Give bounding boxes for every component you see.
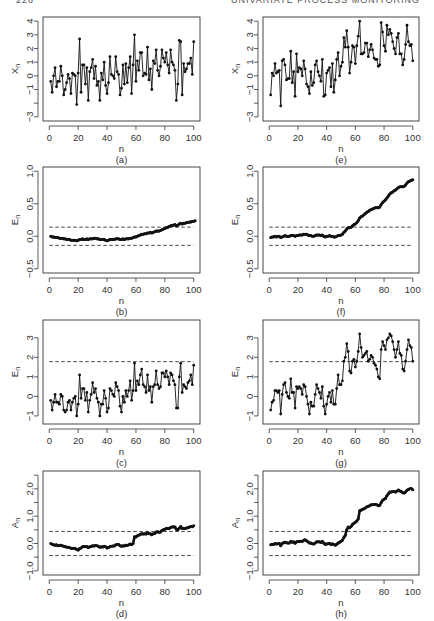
y-tick-label: 1.0 — [244, 165, 255, 178]
x-tick-label: 60 — [350, 132, 361, 143]
x-tick-label: 40 — [102, 132, 113, 143]
x-tick-label: 60 — [350, 284, 361, 295]
x-tick-label: 0 — [267, 284, 272, 295]
panel-caption: (b) — [116, 306, 128, 317]
plot-frame — [43, 167, 200, 273]
y-tick-label: 2 — [244, 355, 255, 360]
y-axis-label: En — [229, 367, 241, 377]
x-tick-label: 40 — [321, 435, 332, 446]
chart-panel-g: 020406080100n(g)−10123En — [229, 320, 420, 468]
y-tick-label: 1 — [24, 60, 35, 65]
x-tick-label: 0 — [47, 132, 52, 143]
x-tick-label: 20 — [293, 435, 304, 446]
x-tick-label: 20 — [293, 586, 304, 597]
y-axis: −0.50.00.51.0 — [24, 165, 38, 279]
x-axis: 020406080100 — [267, 429, 421, 446]
x-tick-label: 40 — [102, 284, 113, 295]
y-tick-label: −1 — [244, 84, 255, 95]
data-points — [49, 362, 195, 418]
plot-frame — [263, 167, 419, 273]
x-tick-label: 20 — [73, 284, 84, 295]
data-series-line — [271, 334, 413, 414]
y-tick-label: −1 — [24, 411, 35, 422]
y-tick-label: −3 — [24, 111, 35, 122]
y-tick-label: 1 — [244, 60, 255, 65]
y-axis: −10123 — [244, 335, 258, 421]
x-tick-label: 0 — [267, 586, 272, 597]
x-tick-label: 40 — [102, 586, 113, 597]
y-tick-label: 0 — [244, 394, 255, 399]
y-tick-label: 0 — [24, 73, 35, 78]
panel-caption: (c) — [116, 457, 127, 468]
y-tick-label: −0.5 — [24, 259, 35, 278]
y-tick-label: 3 — [24, 32, 35, 37]
x-tick-label: 60 — [131, 132, 142, 143]
panel-caption: (a) — [116, 154, 128, 165]
figure-grid: 020406080100n(a)−3−101234Xn020406080100n… — [0, 0, 434, 621]
y-axis: −1.00.01.02.0 — [24, 475, 38, 580]
y-tick-label: 2 — [24, 46, 35, 51]
chart-panel-f: 020406080100n(f)−0.50.00.51.0En — [229, 165, 420, 317]
y-tick-label: 2 — [244, 46, 255, 51]
chart-panel-h: 020406080100n(h)−1.00.01.02.0An — [229, 471, 420, 619]
x-tick-label: 80 — [160, 284, 171, 295]
data-points — [49, 219, 196, 242]
x-tick-label: 80 — [160, 132, 171, 143]
x-tick-label: 80 — [379, 586, 390, 597]
data-series-line — [271, 180, 413, 238]
x-tick-label: 20 — [293, 284, 304, 295]
x-tick-label: 80 — [160, 435, 171, 446]
data-series-line — [271, 489, 413, 546]
y-tick-label: 2 — [24, 355, 35, 360]
data-points — [269, 333, 414, 416]
y-tick-label: 0 — [24, 394, 35, 399]
x-axis-label: n — [338, 143, 343, 154]
y-tick-label: 0.5 — [24, 197, 35, 210]
x-axis: 020406080100 — [47, 126, 202, 143]
chart-panel-e: 020406080100n(e)−3−101234Xn — [229, 17, 420, 165]
y-axis-label: An — [9, 518, 21, 528]
y-tick-label: −1 — [244, 411, 255, 422]
data-series-line — [51, 363, 194, 416]
panel-caption: (g) — [335, 457, 347, 468]
y-axis-label: An — [229, 518, 241, 528]
data-points — [269, 178, 414, 239]
x-axis-label: n — [119, 446, 124, 457]
x-tick-label: 60 — [350, 586, 361, 597]
x-tick-label: 0 — [267, 435, 272, 446]
x-tick-label: 60 — [131, 586, 142, 597]
y-tick-label: 4 — [244, 19, 255, 24]
y-axis: −3−101234 — [24, 19, 38, 123]
panel-caption: (h) — [335, 608, 347, 619]
x-axis: 020406080100 — [47, 429, 202, 446]
panel-caption: (d) — [116, 608, 128, 619]
y-tick-label: 1.0 — [24, 165, 35, 178]
x-axis: 020406080100 — [47, 580, 202, 597]
y-axis-label: En — [9, 367, 21, 377]
y-axis-label: Xn — [9, 64, 21, 74]
y-tick-label: −1.0 — [24, 561, 35, 580]
chart-panel-c: 020406080100n(c)−10123En — [9, 320, 201, 468]
x-axis: 020406080100 — [47, 278, 202, 295]
plot-frame — [43, 471, 200, 575]
x-tick-label: 40 — [102, 435, 113, 446]
plot-frame — [263, 471, 419, 575]
chart-panel-b: 020406080100n(b)−0.50.00.51.0En — [9, 165, 201, 317]
y-axis-label: En — [9, 215, 21, 225]
y-tick-label: 1 — [244, 374, 255, 379]
y-tick-label: 3 — [244, 32, 255, 37]
y-tick-label: 0 — [244, 73, 255, 78]
data-points — [269, 487, 414, 547]
x-tick-label: 80 — [379, 284, 390, 295]
y-tick-label: 0.0 — [24, 230, 35, 243]
y-tick-label: 0.0 — [24, 537, 35, 550]
y-axis: −0.50.00.51.0 — [244, 165, 258, 279]
y-axis: −3−101234 — [244, 19, 258, 123]
x-axis: 020406080100 — [267, 126, 421, 143]
x-axis: 020406080100 — [267, 278, 421, 295]
x-tick-label: 40 — [321, 284, 332, 295]
x-tick-label: 40 — [321, 586, 332, 597]
x-axis-label: n — [119, 143, 124, 154]
y-axis: −1.00.01.02.0 — [244, 475, 258, 580]
y-tick-label: −3 — [244, 111, 255, 122]
